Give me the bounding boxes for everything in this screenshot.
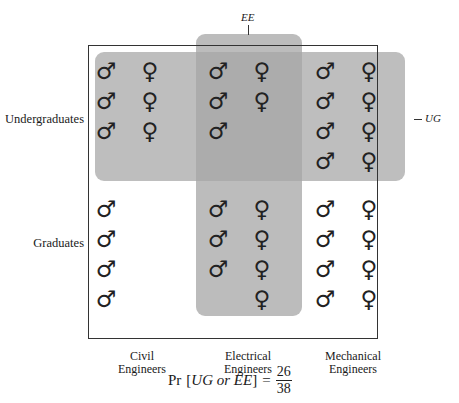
col-label-mechanical: Mechanical Engineers (308, 350, 398, 376)
male-symbol-icon: ♂ (206, 120, 230, 143)
male-symbol-icon: ♂ (206, 198, 230, 221)
fraction-denominator: 38 (277, 381, 291, 397)
ug-tag: UG (425, 112, 441, 124)
female-symbol-icon: ♀ (357, 90, 381, 113)
formula-equals: = (262, 372, 270, 389)
row-label-graduates: Graduates (4, 236, 84, 251)
row-label-undergraduates: Undergraduates (4, 112, 84, 127)
female-symbol-icon: ♀ (250, 288, 274, 311)
female-symbol-icon: ♀ (357, 288, 381, 311)
ug-leader (414, 119, 422, 120)
female-symbol-icon: ♀ (357, 120, 381, 143)
male-symbol-icon: ♂ (313, 90, 337, 113)
male-symbol-icon: ♂ (313, 258, 337, 281)
female-symbol-icon: ♀ (138, 90, 162, 113)
male-symbol-icon: ♂ (94, 228, 118, 251)
male-symbol-icon: ♂ (313, 150, 337, 173)
female-symbol-icon: ♀ (138, 60, 162, 83)
female-symbol-icon: ♀ (138, 120, 162, 143)
male-symbol-icon: ♂ (94, 198, 118, 221)
formula-prefix: Pr (168, 372, 181, 389)
female-symbol-icon: ♀ (357, 60, 381, 83)
male-symbol-icon: ♂ (313, 288, 337, 311)
ee-leader (248, 25, 249, 35)
formula-event: UG or EE (191, 372, 252, 388)
female-symbol-icon: ♀ (250, 258, 274, 281)
male-symbol-icon: ♂ (94, 288, 118, 311)
male-symbol-icon: ♂ (206, 258, 230, 281)
female-symbol-icon: ♀ (357, 258, 381, 281)
male-symbol-icon: ♂ (313, 228, 337, 251)
male-symbol-icon: ♂ (313, 60, 337, 83)
male-symbol-icon: ♂ (94, 60, 118, 83)
male-symbol-icon: ♂ (94, 90, 118, 113)
col-label-mechanical-line2: Engineers (308, 363, 398, 376)
male-symbol-icon: ♂ (94, 120, 118, 143)
ee-tag: EE (241, 11, 254, 23)
male-symbol-icon: ♂ (206, 90, 230, 113)
fraction-numerator: 26 (276, 364, 292, 381)
male-symbol-icon: ♂ (206, 60, 230, 83)
male-symbol-icon: ♂ (313, 198, 337, 221)
female-symbol-icon: ♀ (250, 228, 274, 251)
female-symbol-icon: ♀ (250, 90, 274, 113)
female-symbol-icon: ♀ (357, 150, 381, 173)
male-symbol-icon: ♂ (206, 228, 230, 251)
female-symbol-icon: ♀ (250, 60, 274, 83)
formula-close: ] (252, 372, 257, 388)
female-symbol-icon: ♀ (357, 228, 381, 251)
female-symbol-icon: ♀ (250, 198, 274, 221)
probability-formula: Pr [UG or EE] = 26 38 (168, 364, 292, 397)
formula-fraction: 26 38 (276, 364, 292, 397)
male-symbol-icon: ♂ (94, 258, 118, 281)
male-symbol-icon: ♂ (313, 120, 337, 143)
female-symbol-icon: ♀ (357, 198, 381, 221)
